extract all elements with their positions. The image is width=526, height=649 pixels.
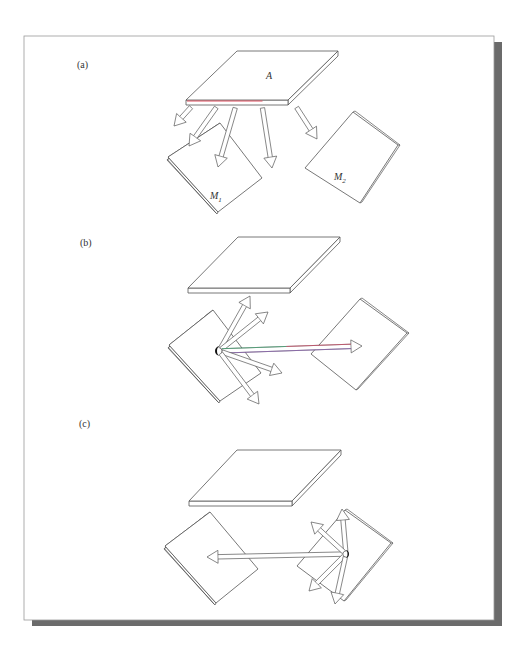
page-frame — [24, 36, 494, 620]
panel-label-a: (a) — [77, 59, 88, 71]
emitter-label: A — [265, 70, 273, 81]
panel-label-c: (c) — [79, 418, 90, 430]
panel-label-b: (b) — [80, 237, 92, 249]
radiosity-figure: (a) M1M2A (b) (c) — [0, 0, 526, 649]
